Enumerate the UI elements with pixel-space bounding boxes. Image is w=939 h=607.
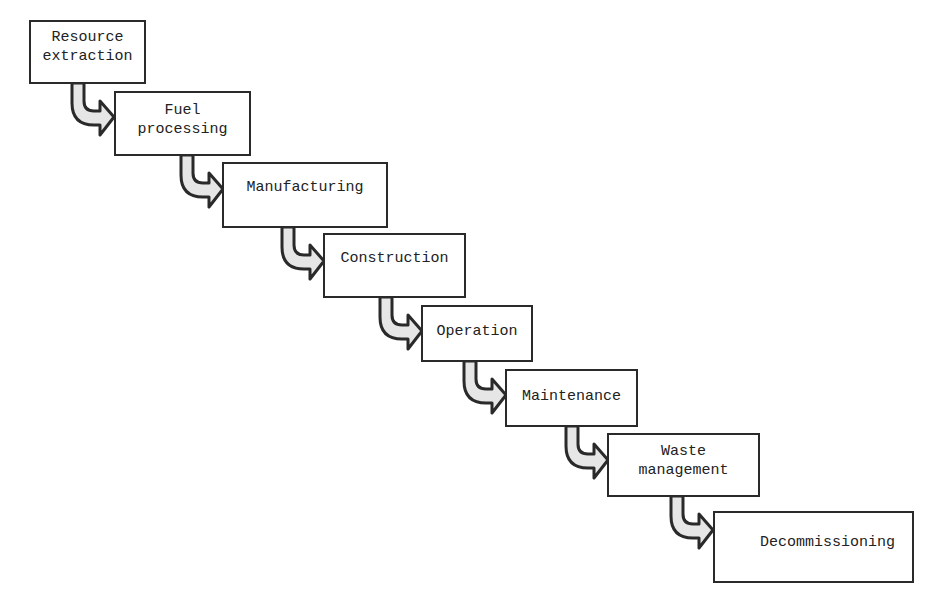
arrow-3-icon: [282, 227, 324, 279]
arrow-1-icon: [72, 83, 114, 135]
lifecycle-diagram: Resource extraction Fuel processing Manu…: [0, 0, 939, 607]
step-decommissioning: Decommissioning: [713, 511, 914, 583]
arrow-5-icon: [464, 361, 506, 413]
step-label: Construction: [340, 249, 448, 268]
arrow-2-icon: [181, 155, 223, 207]
step-label-line1: Resource: [51, 28, 123, 47]
arrow-7-icon: [671, 496, 713, 548]
step-label: Maintenance: [522, 387, 621, 406]
step-waste-management: Waste management: [607, 433, 760, 497]
step-label: Decommissioning: [760, 533, 895, 552]
step-label-line1: Fuel: [164, 101, 200, 120]
step-operation: Operation: [421, 305, 533, 362]
step-label-line2: management: [638, 461, 728, 480]
arrow-6-icon: [566, 426, 608, 478]
step-label-line2: extraction: [42, 47, 132, 66]
step-label-line1: Waste: [661, 442, 706, 461]
step-label: Operation: [436, 322, 517, 341]
step-label: Manufacturing: [246, 178, 363, 197]
arrow-4-icon: [380, 297, 422, 349]
step-maintenance: Maintenance: [505, 369, 638, 427]
step-manufacturing: Manufacturing: [222, 162, 388, 228]
step-label-line2: processing: [137, 120, 227, 139]
step-resource-extraction: Resource extraction: [29, 20, 146, 84]
step-construction: Construction: [323, 233, 466, 298]
step-fuel-processing: Fuel processing: [114, 91, 251, 156]
